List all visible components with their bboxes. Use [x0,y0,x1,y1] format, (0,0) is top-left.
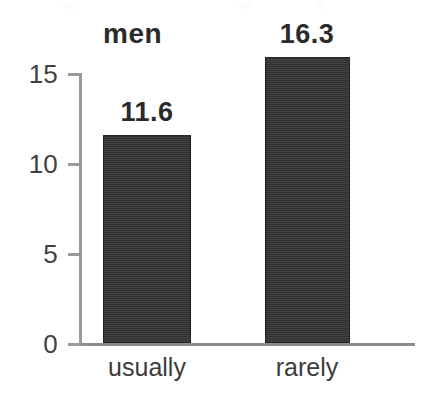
y-axis-label-0: 0 [12,331,58,357]
y-axis-label-10: 10 [12,151,58,177]
x-axis-label-rarely: rarely [257,355,357,380]
y-axis-label-15: 15 [12,61,58,87]
plot-area: 15 10 5 0 11.6 usually 16.3 rarely [0,0,429,399]
x-axis-label-usually: usually [97,355,197,380]
x-axis-line [72,343,415,346]
bar-rarely[interactable] [265,57,350,343]
y-axis-line [79,73,82,345]
y-tick-10 [68,163,81,166]
y-tick-0 [68,343,81,346]
bar-value-usually: 11.6 [97,99,197,126]
y-axis-label-5: 5 [12,241,58,267]
y-tick-5 [68,253,81,256]
bar-value-rarely: 16.3 [257,21,357,48]
bar-chart-figure: men 15 10 5 0 11.6 usually 16.3 rarely [0,0,429,399]
bar-usually[interactable] [103,135,191,343]
y-tick-15 [68,73,81,76]
